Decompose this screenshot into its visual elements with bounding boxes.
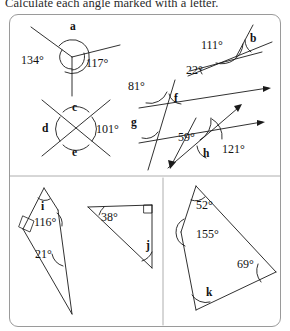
label-38-degrees: 38° [101, 211, 118, 223]
geometry-worksheet: Calculate each angle marked with a lette… [0, 0, 290, 331]
label-angle-c: c [72, 102, 77, 114]
label-81-degrees: 81° [128, 80, 145, 92]
label-angle-f: f [174, 93, 178, 105]
label-52-degrees: 52° [196, 199, 213, 211]
label-59-degrees: 59° [178, 131, 195, 143]
label-angle-a: a [70, 21, 76, 33]
label-angle-j: j [146, 240, 150, 252]
label-angle-d: d [42, 123, 48, 135]
label-21-degrees: 21° [35, 248, 52, 260]
label-117-degrees: 117° [86, 57, 108, 69]
label-121-degrees: 121° [222, 143, 245, 155]
label-22-degrees: 22° [186, 64, 203, 76]
label-116-degrees: 116° [34, 216, 56, 228]
label-angle-g: g [131, 117, 137, 129]
label-101-degrees: 101° [96, 123, 119, 135]
label-155-degrees: 155° [196, 228, 219, 240]
label-134-degrees: 134° [21, 54, 44, 66]
label-angle-b: b [250, 33, 256, 45]
label-69-degrees: 69° [237, 258, 254, 270]
figures-panel [9, 14, 281, 327]
label-111-degrees: 111° [201, 39, 223, 51]
label-angle-i: i [41, 201, 44, 213]
label-angle-k: k [206, 287, 212, 299]
instruction-text: Calculate each angle marked with a lette… [5, 0, 285, 10]
label-angle-e: e [72, 147, 77, 159]
label-angle-h: h [203, 148, 209, 160]
